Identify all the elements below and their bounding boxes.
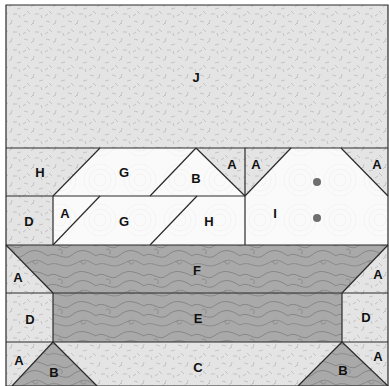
eye-dot-marker	[313, 214, 321, 222]
piece-label: I	[273, 206, 277, 221]
piece-label: A	[373, 267, 383, 282]
piece-label: A	[14, 353, 24, 368]
piece-label: B	[338, 363, 347, 378]
piece-label: A	[373, 349, 383, 364]
eye-dot-marker	[313, 178, 321, 186]
piece-label: D	[361, 310, 370, 325]
piece-label: B	[49, 365, 58, 380]
piece-label: B	[191, 171, 200, 186]
piece-label: H	[35, 165, 44, 180]
piece-label: G	[119, 165, 129, 180]
piece-label: A	[60, 206, 70, 221]
piece-label: A	[227, 157, 237, 172]
piece-label: A	[13, 270, 23, 285]
piece-label: G	[119, 214, 129, 229]
piece-label: A	[251, 157, 261, 172]
piece-label: D	[24, 214, 33, 229]
quilt-diagram: JHGBAAIADAGHAFADEDABCBA	[0, 0, 389, 386]
piece-label: C	[193, 360, 203, 375]
piece-label: H	[204, 214, 213, 229]
piece-label: J	[192, 70, 199, 85]
piece-label: D	[25, 312, 34, 327]
piece-label: A	[372, 157, 382, 172]
piece-label: E	[194, 311, 203, 326]
piece-label: F	[193, 263, 201, 278]
